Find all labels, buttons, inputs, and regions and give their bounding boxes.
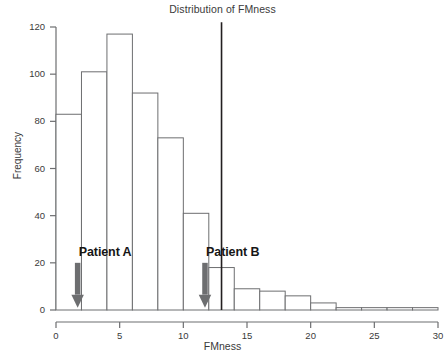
chart-figure: Distribution of FMness Frequency FMness … — [0, 0, 445, 361]
patient-annotation-label: Patient B — [206, 245, 259, 259]
bar — [158, 138, 183, 310]
y-tick-label: 0 — [0, 304, 45, 315]
bar — [311, 303, 336, 310]
arrow-shaft — [202, 263, 208, 295]
bar — [132, 93, 157, 310]
y-tick-label: 40 — [0, 210, 45, 221]
y-tick-label: 20 — [0, 257, 45, 268]
y-tick-label: 100 — [0, 68, 45, 79]
bar — [260, 291, 285, 310]
y-tick-label: 120 — [0, 21, 45, 32]
y-tick-label: 60 — [0, 163, 45, 174]
chart-title: Distribution of FMness — [0, 3, 445, 15]
bar — [336, 308, 361, 310]
bar — [285, 296, 310, 310]
y-tick-label: 80 — [0, 115, 45, 126]
x-tick-label: 20 — [291, 330, 331, 341]
bar — [107, 34, 132, 310]
x-tick-label: 10 — [163, 330, 203, 341]
x-tick-label: 25 — [354, 330, 394, 341]
histogram-plot — [0, 0, 445, 361]
arrow-shaft — [75, 263, 81, 295]
x-axis-label: FMness — [0, 340, 445, 352]
bar-series — [56, 34, 438, 310]
bar — [234, 289, 259, 310]
bar — [413, 308, 438, 310]
x-tick-label: 5 — [100, 330, 140, 341]
bar — [81, 72, 106, 310]
x-tick-label: 15 — [227, 330, 267, 341]
x-tick-label: 0 — [36, 330, 76, 341]
bar — [387, 308, 412, 310]
patient-annotation-label: Patient A — [79, 245, 132, 259]
bar — [362, 308, 387, 310]
x-tick-label: 30 — [418, 330, 445, 341]
